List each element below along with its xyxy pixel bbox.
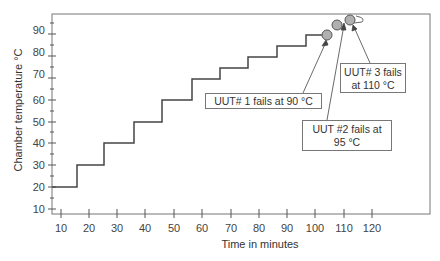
- x-tick-label: 100: [306, 222, 324, 234]
- y-tick-label: 30: [33, 159, 45, 171]
- x-tick-label: 40: [139, 222, 151, 234]
- x-tick-label: 20: [83, 222, 95, 234]
- uut3-annotation-line1: UUT# 3 fails: [341, 66, 405, 79]
- x-tick-label: 90: [281, 222, 293, 234]
- uut2-annotation-line2: 95 °C: [303, 136, 391, 149]
- y-tick-label: 90: [33, 24, 45, 36]
- x-axis-label: Time in minutes: [200, 238, 320, 250]
- x-tick-label: 50: [168, 222, 180, 234]
- y-tick-label: 50: [33, 116, 45, 128]
- x-tick-labels: 10 20 30 40 50 60 70 80 90 100 110 120: [55, 222, 381, 234]
- temperature-step-line: [52, 35, 322, 187]
- uut2-annotation: UUT #2 fails at 95 °C: [302, 120, 392, 151]
- plot-frame: [52, 14, 430, 214]
- y-tick-label: 20: [33, 181, 45, 193]
- uut1-failure-marker: [322, 30, 332, 40]
- uut3-annotation: UUT# 3 fails at 110 °C: [340, 63, 406, 93]
- y-tick-label: 60: [33, 94, 45, 106]
- x-tick-label: 10: [55, 222, 67, 234]
- uut1-annotation: UUT# 1 fails at 90 °C: [205, 93, 322, 109]
- y-tick-labels: 90 80 70 60 50 40 30 20 10: [33, 24, 45, 215]
- uut2-annotation-line1: UUT #2 fails at: [303, 123, 391, 136]
- x-tick-label: 120: [363, 222, 381, 234]
- y-tick-label: 10: [33, 203, 45, 215]
- uut1-annotation-text: UUT# 1 fails at 90 °C: [214, 95, 313, 107]
- uut3-annotation-line2: at 110 °C: [341, 79, 405, 92]
- x-tick-label: 70: [225, 222, 237, 234]
- x-tick-label: 30: [111, 222, 123, 234]
- y-tick-label: 80: [33, 46, 45, 58]
- x-tick-label: 60: [196, 222, 208, 234]
- y-axis-label: Chamber temperature °C: [12, 40, 24, 180]
- uut3-failure-marker: [345, 15, 355, 25]
- x-tick-label: 80: [253, 222, 265, 234]
- uut2-failure-marker: [332, 20, 342, 30]
- y-tick-label: 70: [33, 68, 45, 80]
- y-tick-label: 40: [33, 137, 45, 149]
- failure-markers: [322, 15, 355, 40]
- x-tick-label: 110: [335, 222, 353, 234]
